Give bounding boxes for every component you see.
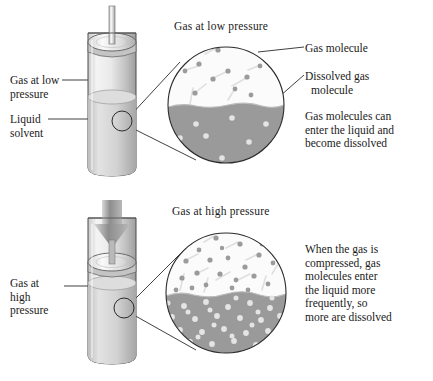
panel-high-pressure: Gas at high pressure Gas at high pressur… [0, 190, 433, 381]
cylinder-low-pressure [88, 6, 136, 176]
low-pressure-artwork [0, 0, 433, 191]
piston-rod-low [109, 6, 115, 44]
magnifier-low-pressure [168, 47, 284, 166]
high-pressure-artwork [0, 190, 433, 381]
magnifier-high-pressure [163, 232, 291, 359]
panel-low-pressure: Gas at low pressure Gas at low pressure … [0, 0, 433, 190]
cylinder-high-pressure [88, 200, 136, 364]
